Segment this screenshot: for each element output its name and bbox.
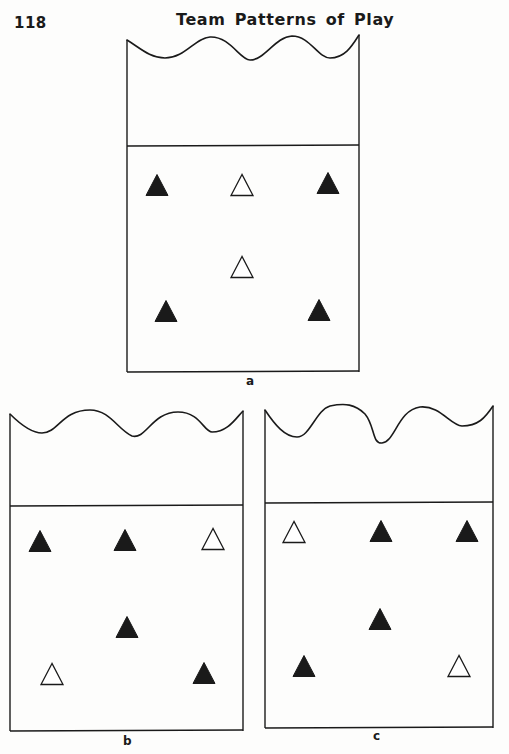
filled-triangle-icon — [370, 521, 392, 542]
court-diagram-b — [10, 410, 243, 731]
diagram-label-b: b — [123, 734, 132, 748]
hollow-triangle-icon — [231, 257, 253, 278]
court-diagram-a — [127, 35, 359, 372]
filled-triangle-icon — [146, 175, 168, 196]
filled-triangle-icon — [456, 521, 478, 542]
end-line — [265, 727, 493, 728]
hollow-triangle-icon — [448, 656, 470, 677]
filled-triangle-icon — [116, 617, 138, 638]
back-wall-wave — [127, 35, 359, 60]
diagram-label-c: c — [373, 729, 380, 743]
filled-triangle-icon — [29, 531, 51, 552]
back-wall-wave — [10, 410, 243, 436]
filled-triangle-icon — [308, 300, 330, 321]
hollow-triangle-icon — [202, 529, 224, 550]
court-diagrams — [0, 0, 509, 754]
hollow-triangle-icon — [231, 175, 253, 196]
hollow-triangle-icon — [41, 664, 63, 685]
filled-triangle-icon — [293, 656, 315, 677]
end-line — [10, 730, 243, 731]
net-line — [265, 502, 493, 503]
filled-triangle-icon — [317, 173, 339, 194]
back-wall-wave — [265, 405, 493, 444]
filled-triangle-icon — [369, 609, 391, 630]
net-line — [127, 145, 359, 146]
diagram-label-a: a — [246, 374, 254, 388]
filled-triangle-icon — [155, 301, 177, 322]
net-line — [10, 505, 243, 506]
filled-triangle-icon — [193, 663, 215, 684]
court-diagram-c — [265, 405, 493, 728]
end-line — [127, 371, 359, 372]
filled-triangle-icon — [114, 530, 136, 551]
hollow-triangle-icon — [283, 522, 305, 543]
